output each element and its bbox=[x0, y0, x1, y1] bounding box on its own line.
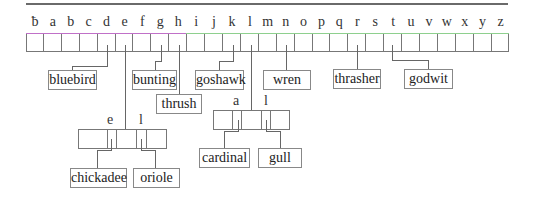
connector-line bbox=[155, 61, 162, 62]
connector-line bbox=[97, 150, 112, 151]
root-letter: e bbox=[116, 14, 134, 30]
connector-line bbox=[266, 131, 281, 132]
array-cell bbox=[187, 33, 205, 52]
top-rule bbox=[26, 3, 508, 5]
root-letter-row: ƀ a b c d e f g h i j k l m n o p q r s … bbox=[26, 14, 510, 30]
connector-line bbox=[286, 45, 287, 70]
root-letter: q bbox=[330, 14, 348, 30]
array-cell bbox=[384, 33, 402, 52]
subnode-array-l bbox=[213, 110, 290, 130]
connector-line bbox=[233, 45, 234, 62]
root-letter: y bbox=[474, 14, 492, 30]
connector-line bbox=[179, 45, 180, 95]
root-letter: o bbox=[295, 14, 313, 30]
leaf-gull: gull bbox=[258, 148, 302, 168]
root-letter: v bbox=[420, 14, 438, 30]
connector-line bbox=[224, 131, 225, 148]
leaf-bunting: bunting bbox=[132, 70, 177, 90]
subnode-letter: a bbox=[233, 93, 239, 109]
root-letter: j bbox=[205, 14, 223, 30]
array-cell bbox=[259, 33, 277, 52]
connector-line bbox=[155, 150, 156, 168]
root-letter: c bbox=[80, 14, 98, 30]
array-cell bbox=[26, 33, 44, 52]
root-letter: ƀ bbox=[26, 14, 44, 30]
root-letter: g bbox=[151, 14, 169, 30]
array-cell bbox=[205, 33, 223, 52]
root-letter: x bbox=[456, 14, 474, 30]
connector-line bbox=[251, 45, 252, 110]
array-top-edge-pink bbox=[26, 33, 186, 34]
connector-line bbox=[72, 66, 108, 67]
leaf-thrasher: thrasher bbox=[333, 69, 381, 89]
array-cell bbox=[295, 33, 313, 52]
root-letter: u bbox=[402, 14, 420, 30]
root-letter: t bbox=[384, 14, 402, 30]
root-letter: z bbox=[492, 14, 510, 30]
root-letter: k bbox=[223, 14, 241, 30]
leaf-chickadee: chickadee bbox=[70, 168, 127, 188]
connector-line bbox=[125, 45, 126, 129]
root-letter: m bbox=[259, 14, 277, 30]
array-cell bbox=[438, 33, 456, 52]
connector-line bbox=[357, 45, 358, 70]
root-letter: h bbox=[169, 14, 187, 30]
array-cell bbox=[402, 33, 420, 52]
array-cell bbox=[313, 33, 331, 52]
array-cell bbox=[241, 33, 259, 52]
root-letter: a bbox=[44, 14, 62, 30]
connector-line bbox=[392, 45, 393, 61]
subnode-letter: e bbox=[107, 112, 113, 128]
connector-line bbox=[155, 61, 156, 70]
array-cell bbox=[456, 33, 474, 52]
array-cell bbox=[366, 33, 384, 52]
array-cell bbox=[223, 33, 241, 52]
leaf-bluebird: bluebird bbox=[48, 70, 97, 90]
subnode-letter: l bbox=[139, 112, 143, 128]
leaf-cardinal: cardinal bbox=[199, 148, 250, 168]
connector-line bbox=[97, 150, 98, 168]
connector-line bbox=[224, 131, 239, 132]
leaf-oriole: oriole bbox=[133, 168, 180, 188]
connector-line bbox=[219, 61, 220, 70]
array-top-edge-green bbox=[186, 33, 509, 34]
leaf-godwit: godwit bbox=[404, 69, 453, 89]
array-cell bbox=[330, 33, 348, 52]
leaf-goshawk: goshawk bbox=[195, 70, 244, 90]
array-cell bbox=[62, 33, 80, 52]
root-letter: p bbox=[313, 14, 331, 30]
root-node-array bbox=[26, 33, 509, 52]
array-cell bbox=[420, 33, 438, 52]
root-letter: f bbox=[133, 14, 151, 30]
leaf-wren: wren bbox=[263, 70, 311, 90]
connector-line bbox=[280, 131, 281, 148]
subnode-array-e bbox=[78, 129, 167, 149]
array-cell bbox=[474, 33, 492, 52]
connector-line bbox=[141, 150, 156, 151]
root-letter: w bbox=[438, 14, 456, 30]
root-letter: n bbox=[277, 14, 295, 30]
leaf-thrush: thrush bbox=[156, 94, 202, 114]
root-letter: r bbox=[348, 14, 366, 30]
root-letter: d bbox=[98, 14, 116, 30]
root-letter: b bbox=[62, 14, 80, 30]
subnode-letter: l bbox=[264, 93, 268, 109]
connector-line bbox=[392, 60, 429, 61]
array-cell bbox=[133, 33, 151, 52]
connector-line bbox=[219, 61, 234, 62]
array-cell bbox=[492, 33, 510, 52]
array-cell bbox=[44, 33, 62, 52]
connector-line bbox=[161, 45, 162, 62]
root-letter: l bbox=[241, 14, 259, 30]
array-cell bbox=[80, 33, 98, 52]
root-letter: i bbox=[187, 14, 205, 30]
connector-line bbox=[107, 45, 108, 67]
root-letter: s bbox=[366, 14, 384, 30]
